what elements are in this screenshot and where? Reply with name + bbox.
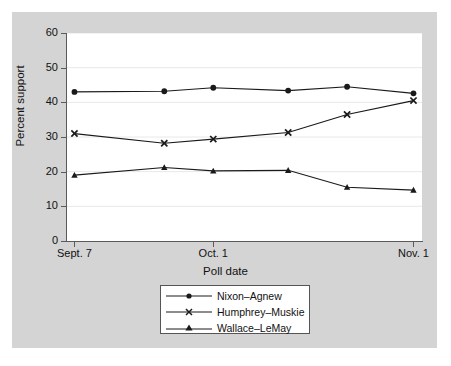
chart-figure: Percent support 0102030405060 Sept. 7Oct… bbox=[0, 0, 451, 366]
x-tick-label: Nov. 1 bbox=[398, 247, 429, 259]
y-tick bbox=[61, 102, 67, 103]
data-point bbox=[161, 88, 167, 94]
data-point bbox=[72, 89, 78, 95]
legend-key-filled-triangle-icon bbox=[165, 321, 213, 335]
y-tick bbox=[61, 241, 67, 242]
legend-label-nixon-agnew: Nixon–Agnew bbox=[217, 290, 282, 302]
legend-item-wallace-lemay[interactable]: Wallace–LeMay bbox=[161, 320, 309, 335]
legend-label-humphrey-muskie: Humphrey–Muskie bbox=[217, 306, 305, 318]
x-tick-label: Oct. 1 bbox=[199, 247, 228, 259]
x-axis-title: Poll date bbox=[0, 265, 451, 277]
x-tick-label: Sept. 7 bbox=[57, 247, 92, 259]
chart-legend: Nixon–Agnew Humphrey–Muskie Wallace–LeMa… bbox=[160, 285, 310, 334]
plot-area bbox=[67, 33, 422, 241]
plot-canvas bbox=[67, 33, 422, 241]
y-tick-label: 50 bbox=[32, 62, 58, 73]
legend-key-x-cross-icon bbox=[165, 305, 213, 319]
y-tick-label: 0 bbox=[32, 235, 58, 246]
y-tick bbox=[61, 68, 67, 69]
series-line-2 bbox=[74, 168, 413, 191]
y-tick bbox=[61, 206, 67, 207]
y-tick bbox=[61, 33, 67, 34]
y-tick bbox=[61, 137, 67, 138]
data-point bbox=[210, 85, 216, 91]
y-tick-labels: 0102030405060 bbox=[30, 0, 58, 336]
legend-label-wallace-lemay: Wallace–LeMay bbox=[217, 322, 291, 334]
y-tick-label: 40 bbox=[32, 96, 58, 107]
y-tick-label: 20 bbox=[32, 166, 58, 177]
x-axis-line bbox=[66, 241, 423, 242]
legend-item-nixon-agnew[interactable]: Nixon–Agnew bbox=[161, 288, 309, 303]
y-tick-label: 10 bbox=[32, 200, 58, 211]
data-point bbox=[344, 84, 350, 90]
y-axis-title: Percent support bbox=[14, 41, 26, 171]
y-tick-label: 60 bbox=[32, 27, 58, 38]
data-point bbox=[285, 88, 291, 94]
data-point bbox=[411, 90, 417, 96]
legend-item-humphrey-muskie[interactable]: Humphrey–Muskie bbox=[161, 304, 309, 319]
series-line-0 bbox=[74, 87, 413, 94]
y-tick-label: 30 bbox=[32, 131, 58, 142]
legend-key-filled-circle-icon bbox=[165, 289, 213, 303]
y-tick bbox=[61, 172, 67, 173]
